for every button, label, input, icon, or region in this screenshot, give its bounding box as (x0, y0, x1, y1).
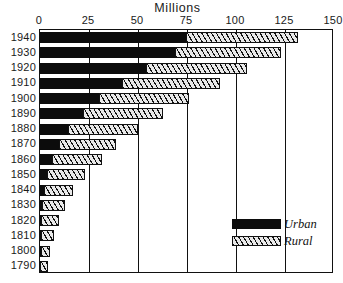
y-tick-label: 1870 (11, 137, 36, 149)
bar-segment-rural (122, 78, 220, 89)
bar-segment-urban (40, 139, 59, 150)
y-tick-label: 1850 (11, 168, 36, 180)
bar-row (40, 169, 334, 180)
y-tick-label: 1880 (11, 122, 36, 134)
y-tick-label: 1840 (11, 183, 36, 195)
solid-black-swatch (232, 219, 281, 229)
bar-row (40, 78, 334, 89)
bar-row (40, 47, 334, 58)
y-tick-label: 1810 (11, 229, 36, 241)
x-tick-label: 0 (36, 14, 42, 26)
chart-legend: Urban Rural (232, 218, 328, 252)
x-tick-label: 150 (324, 14, 343, 26)
y-tick-label: 1860 (11, 153, 36, 165)
bar-segment-rural (83, 108, 163, 119)
hatched-swatch (232, 236, 281, 246)
x-tick-label: 25 (82, 14, 95, 26)
bar-segment-rural (47, 169, 85, 180)
y-tick-label: 1920 (11, 61, 36, 73)
bar-row (40, 93, 334, 104)
bar-row (40, 200, 334, 211)
bar-row (40, 185, 334, 196)
population-bar-chart: Millions 0255075100125150 19401930192019… (0, 0, 343, 283)
bar-segment-rural (186, 32, 298, 43)
bar-segment-rural (146, 63, 247, 74)
bar-segment-urban (40, 93, 99, 104)
y-axis-tick-labels: 1940193019201910190018901880187018601850… (0, 29, 39, 273)
y-tick-label: 1930 (11, 46, 36, 58)
bar-row (40, 139, 334, 150)
bar-segment-urban (40, 108, 83, 119)
bar-segment-rural (41, 246, 51, 257)
bar-segment-rural (52, 154, 101, 165)
bar-segment-urban (40, 78, 122, 89)
bar-row (40, 32, 334, 43)
y-tick-label: 1940 (11, 31, 36, 43)
bar-segment-rural (175, 47, 280, 58)
bar-segment-urban (40, 169, 47, 180)
bar-row (40, 124, 334, 135)
legend-label-urban: Urban (284, 217, 317, 232)
y-tick-label: 1830 (11, 198, 36, 210)
plot-area: Urban Rural (39, 29, 333, 273)
y-tick-label: 1790 (11, 259, 36, 271)
bar-segment-rural (42, 200, 65, 211)
x-tick-label: 125 (275, 14, 294, 26)
bar-segment-rural (99, 93, 189, 104)
bar-segment-rural (41, 230, 54, 241)
bar-segment-urban (40, 154, 52, 165)
legend-label-rural: Rural (284, 234, 312, 249)
x-tick-label: 50 (131, 14, 144, 26)
bar-segment-urban (40, 32, 186, 43)
legend-item-urban: Urban (232, 218, 328, 231)
bar-segment-urban (40, 63, 146, 74)
bar-segment-rural (44, 185, 74, 196)
x-tick-label: 75 (180, 14, 193, 26)
bar-segment-rural (40, 261, 47, 272)
bar-row (40, 63, 334, 74)
bar-segment-rural (59, 139, 115, 150)
y-tick-label: 1910 (11, 76, 36, 88)
x-axis-tick-labels: 0255075100125150 (0, 14, 343, 27)
y-tick-label: 1900 (11, 92, 36, 104)
bar-segment-urban (40, 124, 68, 135)
x-tick-label: 100 (226, 14, 245, 26)
bar-row (40, 108, 334, 119)
y-tick-label: 1890 (11, 107, 36, 119)
bar-segment-urban (40, 47, 175, 58)
chart-title: Millions (0, 1, 343, 15)
y-tick-label: 1820 (11, 214, 36, 226)
bar-segment-rural (68, 124, 139, 135)
y-tick-label: 1800 (11, 244, 36, 256)
chart-title-text: Millions (154, 1, 200, 15)
bar-row (40, 154, 334, 165)
bar-segment-rural (41, 215, 58, 226)
bar-row (40, 261, 334, 272)
legend-item-rural: Rural (232, 235, 328, 248)
